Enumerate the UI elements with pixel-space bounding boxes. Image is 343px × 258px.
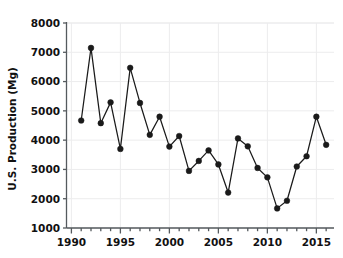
y-axis-tick-label: 4000 [31, 134, 60, 146]
y-axis-tick-label: 6000 [31, 75, 60, 87]
x-axis-tick-label: 1990 [57, 236, 86, 248]
data-point-marker [255, 165, 261, 171]
x-axis-tick-label: 2000 [155, 236, 184, 248]
y-axis-tick-label: 7000 [31, 46, 60, 58]
data-point-marker [127, 65, 133, 71]
data-point-marker [235, 136, 241, 142]
x-axis-tick-label: 2015 [302, 236, 331, 248]
data-point-marker [147, 132, 153, 138]
data-point-marker [137, 100, 143, 106]
y-axis-tick-label: 3000 [31, 163, 60, 175]
data-point-marker [186, 168, 192, 174]
data-point-marker [245, 143, 251, 149]
data-point-marker [167, 144, 173, 150]
x-axis-tick-label: 2005 [204, 236, 233, 248]
data-point-marker [157, 114, 163, 120]
y-axis-title: U.S. Production (Mg) [6, 67, 18, 191]
data-point-marker [98, 120, 104, 126]
data-point-marker [196, 158, 202, 164]
line-chart: 199019952000200520102015 100020003000400… [0, 0, 343, 258]
chart-background [0, 0, 343, 258]
y-axis-tick-label: 5000 [31, 105, 60, 117]
chart-container: 199019952000200520102015 100020003000400… [0, 0, 343, 258]
data-point-marker [304, 153, 310, 159]
data-point-marker [176, 133, 182, 139]
data-point-marker [118, 146, 124, 152]
x-axis-tick-label: 2010 [253, 236, 282, 248]
data-point-marker [265, 174, 271, 180]
data-point-marker [78, 118, 84, 124]
data-point-marker [314, 114, 320, 120]
data-point-marker [88, 45, 94, 51]
data-point-marker [225, 190, 231, 196]
data-point-marker [108, 100, 114, 106]
data-point-marker [216, 162, 222, 168]
y-axis-tick-label: 2000 [31, 193, 60, 205]
data-point-marker [206, 148, 212, 154]
y-axis-tick-label: 1000 [31, 222, 60, 234]
x-axis-tick-label: 1995 [106, 236, 135, 248]
data-point-marker [284, 198, 290, 204]
y-axis-tick-label: 8000 [31, 17, 60, 29]
data-point-marker [294, 164, 300, 170]
data-point-marker [323, 142, 329, 148]
data-point-marker [274, 206, 280, 212]
